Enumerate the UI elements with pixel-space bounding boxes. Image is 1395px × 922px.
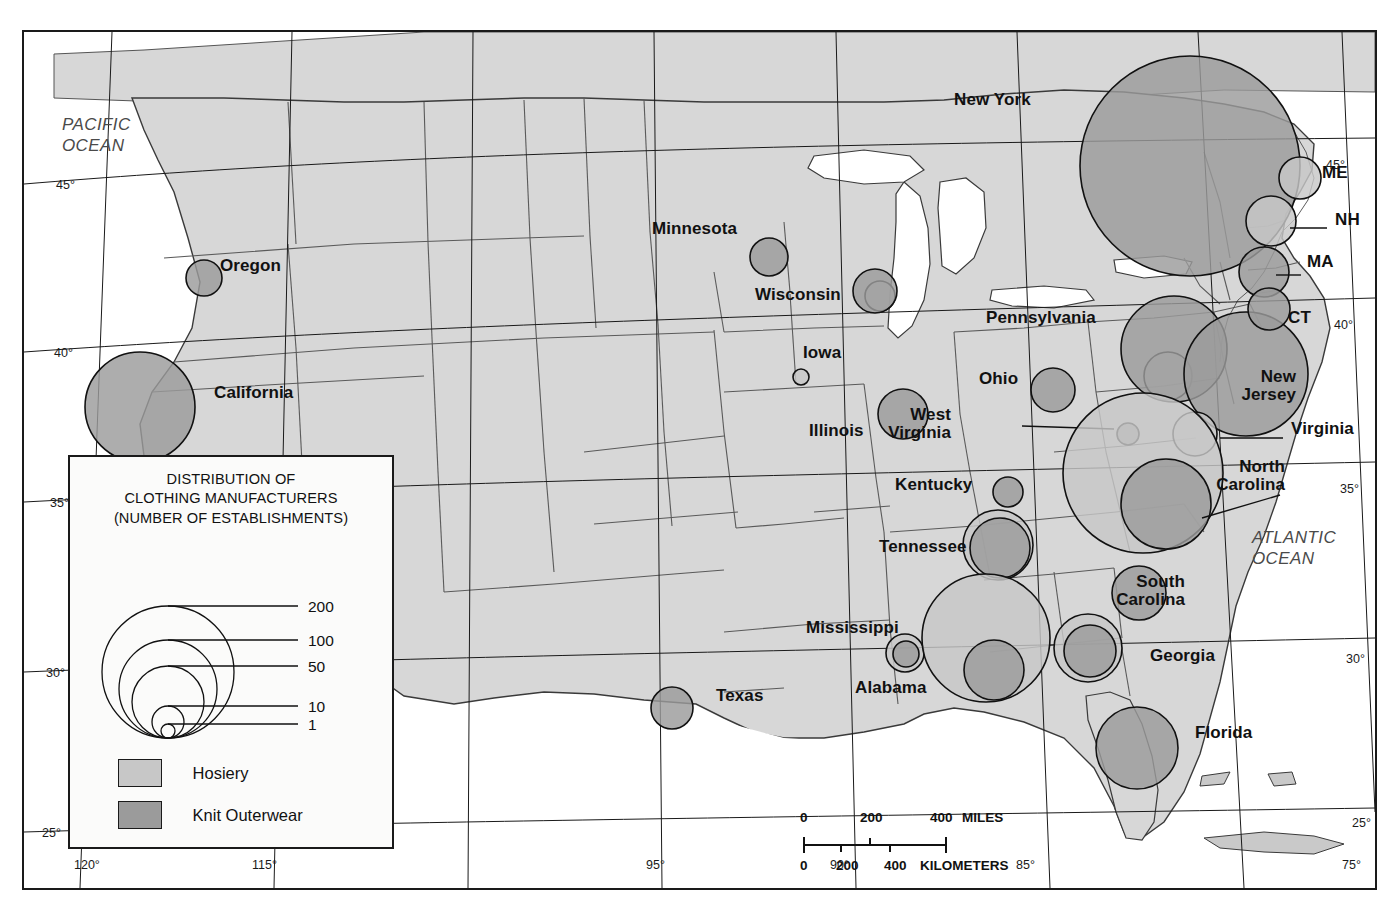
symbol-knit-outerwear-mississippi [893,641,919,667]
state-label-north-carolina: NorthCarolina [1216,458,1285,494]
symbol-knit-outerwear-ohio [1031,368,1075,412]
state-label-west-virginia-line-1: West [888,406,951,424]
state-label-west-virginia-line-2: Virginia [888,424,951,442]
symbol-knit-outerwear-north-carolina [1121,459,1211,549]
state-label-new-york-line-1: New York [954,91,1031,109]
state-label-iowa-line-1: Iowa [803,344,841,362]
scale-bar-graphic [800,832,1010,858]
state-label-kentucky-line-1: Kentucky [895,476,972,494]
symbol-knit-outerwear-kentucky [993,477,1023,507]
state-label-south-carolina: SouthCarolina [1116,573,1185,609]
state-label-new-jersey-line-1: New [1242,368,1297,386]
legend-swatch-knit-outerwear [118,801,162,829]
legend-title: DISTRIBUTION OF CLOTHING MANUFACTURERS (… [70,457,392,528]
state-label-south-carolina-line-2: Carolina [1116,591,1185,609]
legend-swatch-hosiery [118,759,162,787]
state-label-tennessee: Tennessee [879,538,967,556]
legend-value-1: 1 [308,716,317,733]
legend-title-line-3: (NUMBER OF ESTABLISHMENTS) [70,509,392,528]
state-label-wisconsin: Wisconsin [755,286,841,304]
state-label-iowa: Iowa [803,344,841,362]
state-label-ohio-line-1: Ohio [979,370,1018,388]
state-label-north-carolina-line-2: Carolina [1216,476,1285,494]
state-label-new-york: New York [954,91,1031,109]
graticule-label-left-0: 45° [56,178,75,192]
state-label-mississippi-line-1: Mississippi [806,619,899,637]
scale-miles-unit: MILES [962,810,1003,825]
legend-value-100: 100 [308,632,334,649]
state-label-south-carolina-line-1: South [1116,573,1185,591]
graticule-label-left-3: 30° [46,666,65,680]
graticule-label-bottom-5: 75° [1342,858,1361,872]
state-label-mississippi: Mississippi [806,619,899,637]
scale-bar: 0 200 400 MILES 0 200 400 KILOMETERS [800,810,1060,884]
graticule-label-bottom-0: 120° [74,858,100,872]
legend-value-50: 50 [308,658,326,675]
map-page: OregonCaliforniaMinnesotaWisconsinIowaIl… [0,0,1395,922]
state-label-virginia-line-1: Virginia [1291,420,1354,438]
state-label-illinois-line-1: Illinois [809,422,864,440]
legend-label-knit-outerwear: Knit Outerwear [193,806,303,825]
legend-key-knit-outerwear: Knit Outerwear [118,801,303,829]
state-label-texas-line-1: Texas [716,687,763,705]
ocean-label-pacific-ocean-line-1: PACIFIC [62,114,131,135]
ocean-label-pacific-ocean-line-2: OCEAN [62,135,131,156]
state-label-oregon: Oregon [220,257,281,275]
symbol-knit-outerwear-california [85,352,195,462]
state-label-minnesota-line-1: Minnesota [652,220,737,238]
state-label-new-hampshire: NH [1335,211,1360,229]
graticule-label-right-1: 40° [1334,318,1353,332]
legend-title-line-1: DISTRIBUTION OF [70,470,392,489]
state-label-virginia: Virginia [1291,420,1354,438]
state-label-oregon-line-1: Oregon [220,257,281,275]
legend-value-10: 10 [308,698,326,715]
state-label-georgia-line-1: Georgia [1150,647,1215,665]
state-label-west-virginia: WestVirginia [888,406,951,442]
state-label-tennessee-line-1: Tennessee [879,538,967,556]
symbol-knit-outerwear-tennessee [970,518,1030,578]
state-label-new-hampshire-line-1: NH [1335,211,1360,229]
legend-circle-10 [152,706,184,738]
graticule-label-left-1: 40° [54,346,73,360]
state-label-massachusetts: MA [1307,253,1334,271]
graticule-label-left-4: 25° [42,826,61,840]
map-frame: OregonCaliforniaMinnesotaWisconsinIowaIl… [22,30,1377,890]
scale-miles-200: 200 [860,810,883,825]
symbol-knit-outerwear-florida [1096,707,1178,789]
symbol-knit-outerwear-wisconsin [853,269,897,313]
graticule-label-bottom-4: 85° [1016,858,1035,872]
graticule-label-right-4: 25° [1352,816,1371,830]
state-label-california: California [214,384,293,402]
scale-miles-0: 0 [800,810,808,825]
state-label-california-line-1: California [214,384,293,402]
symbol-knit-outerwear-texas [651,687,693,729]
graticule-label-bottom-2: 95° [646,858,665,872]
state-label-wisconsin-line-1: Wisconsin [755,286,841,304]
ocean-label-atlantic-ocean-line-1: ATLANTIC [1252,527,1336,548]
state-label-minnesota: Minnesota [652,220,737,238]
scale-km-400: 400 [884,858,907,873]
state-label-north-carolina-line-1: North [1216,458,1285,476]
state-label-florida: Florida [1195,724,1252,742]
state-label-massachusetts-line-1: MA [1307,253,1334,271]
legend-nested-circles: 200 100 50 10 1 [76,535,388,741]
state-label-florida-line-1: Florida [1195,724,1252,742]
state-label-pennsylvania: Pennsylvania [986,309,1096,327]
state-label-illinois: Illinois [809,422,864,440]
state-label-new-jersey: NewJersey [1242,368,1297,404]
graticule-label-right-3: 30° [1346,652,1365,666]
ocean-label-atlantic-ocean: ATLANTICOCEAN [1252,527,1336,570]
graticule-label-right-2: 35° [1340,482,1359,496]
scale-km-0: 0 [800,858,808,873]
symbol-knit-outerwear-alabama [964,640,1024,700]
state-label-alabama-line-1: Alabama [855,679,927,697]
legend-circle-1 [161,724,175,738]
state-label-pennsylvania-line-1: Pennsylvania [986,309,1096,327]
scale-miles-400: 400 [930,810,953,825]
state-label-alabama: Alabama [855,679,927,697]
legend-circle-50 [132,666,204,738]
legend-title-line-2: CLOTHING MANUFACTURERS [70,489,392,508]
state-label-georgia: Georgia [1150,647,1215,665]
legend-circle-100 [119,640,217,738]
legend-panel: DISTRIBUTION OF CLOTHING MANUFACTURERS (… [68,455,394,849]
